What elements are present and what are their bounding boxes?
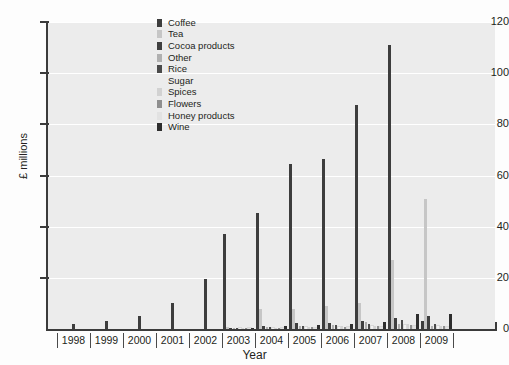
legend-label: Wine [168,122,190,132]
bar [449,314,452,329]
y-axis-title: £ millions [17,111,29,201]
legend-swatch [157,123,162,131]
bar-chart: 020406080100120 £ millions 1998199920002… [0,0,509,365]
legend-label: Spices [168,87,197,97]
legend-label: Other [168,53,192,63]
legend-label: Cocoa products [168,41,235,51]
gridline [47,22,495,23]
legend-label: Flowers [168,99,201,109]
y-axis-line [46,22,48,330]
legend-item: Wine [157,121,235,133]
x-axis-labels: 1998199920002001200220032004200520062007… [0,333,509,349]
bar [204,279,207,329]
legend-item: Honey products [157,110,235,122]
bar [138,316,141,329]
x-axis-tick-label: 2006 [321,334,354,347]
legend-swatch [157,54,162,62]
legend-item: Tea [157,29,235,41]
x-axis-tick-label: 1999 [90,334,123,347]
legend-item: Other [157,52,235,64]
legend-swatch [157,19,162,27]
bar [171,303,174,329]
x-axis-tick-label: 2009 [420,334,453,347]
x-axis-tick-label: 2005 [288,334,321,347]
x-axis-tick-label: 2001 [156,334,189,347]
gridline [47,227,495,228]
bar [416,314,419,329]
x-axis-tick-label: 2000 [123,334,156,347]
x-axis-title: Year [0,348,509,362]
legend-swatch [157,77,162,85]
gridline [47,124,495,125]
legend-item: Sugar [157,75,235,87]
bar [289,164,292,329]
plot-area [47,22,495,329]
bar [383,322,386,329]
legend-item: Coffee [157,17,235,29]
x-axis-tick-label: 2007 [354,334,387,347]
x-axis-end-tick [495,322,497,331]
legend-swatch [157,100,162,108]
legend-swatch [157,65,162,73]
legend-label: Coffee [168,18,196,28]
legend-item: Cocoa products [157,40,235,52]
legend-label: Rice [168,64,187,74]
x-axis-tick-label: 1998 [57,334,90,347]
bar [223,234,226,329]
legend-label: Honey products [168,111,235,121]
legend-label: Sugar [168,76,193,86]
x-axis-separator [453,333,454,348]
legend-label: Tea [168,29,183,39]
gridline [47,73,495,74]
legend: CoffeeTeaCocoa productsOtherRiceSugarSpi… [157,17,235,133]
legend-item: Spices [157,87,235,99]
legend-swatch [157,30,162,38]
x-axis-tick-label: 2002 [189,334,222,347]
legend-item: Rice [157,63,235,75]
x-axis-tick-label: 2004 [255,334,288,347]
legend-swatch [157,42,162,50]
bar [424,199,427,329]
x-axis-line [46,329,497,331]
bar [322,159,325,329]
legend-item: Flowers [157,98,235,110]
gridline [47,278,495,279]
legend-swatch [157,88,162,96]
x-axis-tick-label: 2003 [222,334,255,347]
bar [355,105,358,329]
bar [105,321,108,329]
gridline [47,176,495,177]
legend-swatch [157,112,162,120]
x-axis-tick-label: 2008 [387,334,420,347]
